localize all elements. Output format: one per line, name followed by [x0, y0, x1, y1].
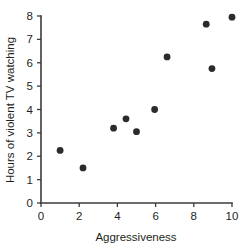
- data-point: [229, 14, 236, 21]
- data-point: [123, 115, 130, 122]
- data-point-group: [57, 14, 236, 172]
- data-point: [164, 54, 171, 61]
- data-point: [80, 165, 87, 172]
- x-axis-title: Aggressiveness: [95, 231, 176, 243]
- x-axis-tick-label: 0: [38, 210, 44, 222]
- y-axis-tick-label: 8: [27, 10, 33, 22]
- x-axis-tick-label: 8: [191, 210, 197, 222]
- y-axis-tick-label: 3: [27, 127, 33, 139]
- scatter-plot-figure: 012345678 0246810 Aggressiveness Hours o…: [0, 0, 246, 251]
- y-axis-tick-label: 4: [27, 104, 34, 116]
- y-axis-title: Hours of violent TV watching: [4, 37, 16, 183]
- x-axis-tick-label: 4: [114, 210, 121, 222]
- data-point: [151, 106, 158, 113]
- y-axis-tick-label: 5: [27, 80, 33, 92]
- x-axis-tick-label: 6: [152, 210, 158, 222]
- data-point: [57, 147, 64, 154]
- x-axis-tick-label: 10: [226, 210, 239, 222]
- data-point: [110, 125, 117, 132]
- y-axis-tick-group: 012345678: [27, 10, 41, 209]
- y-axis-tick-label: 6: [27, 57, 33, 69]
- plot-canvas: 012345678 0246810 Aggressiveness Hours o…: [0, 0, 246, 251]
- x-axis-tick-group: 0246810: [38, 203, 239, 222]
- x-axis-tick-label: 2: [76, 210, 82, 222]
- data-point: [203, 21, 210, 28]
- y-axis-tick-label: 0: [27, 197, 33, 209]
- data-point: [209, 65, 216, 72]
- y-axis-tick-label: 7: [27, 33, 33, 45]
- data-point: [133, 128, 140, 135]
- y-axis-tick-label: 2: [27, 150, 33, 162]
- y-axis-tick-label: 1: [27, 174, 33, 186]
